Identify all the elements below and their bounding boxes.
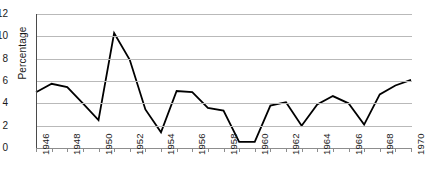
x-tick [224, 148, 225, 152]
x-tick-label: 1956 [196, 133, 207, 155]
x-tick [99, 148, 100, 152]
x-tick-label: 1960 [259, 133, 270, 155]
x-tick [192, 148, 193, 152]
x-tick [380, 148, 381, 152]
x-tick [317, 148, 318, 152]
x-tick [83, 148, 84, 152]
gridline-y [36, 59, 412, 60]
y-tick-label: 2 [0, 121, 8, 131]
x-tick [302, 148, 303, 152]
x-tick [411, 148, 412, 152]
x-tick-label: 1954 [165, 133, 176, 155]
x-tick-label: 1950 [103, 133, 114, 155]
x-tick [239, 148, 240, 152]
x-tick [161, 148, 162, 152]
x-tick [36, 148, 37, 152]
y-tick-label: 12 [0, 9, 8, 19]
y-tick-label: 4 [0, 98, 8, 108]
x-tick [286, 148, 287, 152]
x-tick-label: 1958 [228, 133, 239, 155]
x-tick [67, 148, 68, 152]
x-tick [145, 148, 146, 152]
x-tick [177, 148, 178, 152]
y-tick-label: 10 [0, 31, 8, 41]
gridline-y [36, 126, 412, 127]
x-tick [52, 148, 53, 152]
y-tick-label: 8 [0, 54, 8, 64]
x-tick-label: 1962 [290, 133, 301, 155]
gridline-y [36, 81, 412, 82]
x-tick-label: 1952 [134, 133, 145, 155]
gridline-y [36, 36, 412, 37]
x-tick [255, 148, 256, 152]
gridline-y [36, 103, 412, 104]
plot-area [36, 14, 412, 148]
x-tick [114, 148, 115, 152]
gridline-y [36, 14, 412, 15]
x-tick-label: 1946 [40, 133, 51, 155]
x-tick [395, 148, 396, 152]
x-tick-label: 1970 [415, 133, 426, 155]
x-tick [130, 148, 131, 152]
x-tick [208, 148, 209, 152]
x-tick-label: 1966 [353, 133, 364, 155]
x-tick [333, 148, 334, 152]
x-tick [270, 148, 271, 152]
line-chart: Percentage 024681012 1946194819501952195… [0, 0, 427, 192]
y-tick-label: 6 [0, 76, 8, 86]
x-tick-label: 1948 [71, 133, 82, 155]
x-tick-label: 1964 [321, 133, 332, 155]
x-tick [364, 148, 365, 152]
x-tick [349, 148, 350, 152]
y-axis-line [36, 14, 37, 149]
y-tick-label: 0 [0, 143, 8, 153]
x-tick-label: 1968 [384, 133, 395, 155]
